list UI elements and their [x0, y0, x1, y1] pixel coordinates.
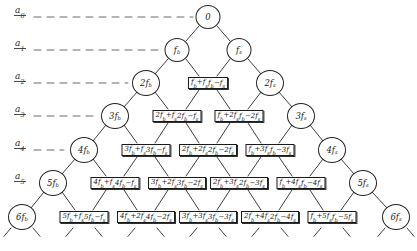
box-line-difference: 2fb−3fs — [239, 180, 265, 188]
edge-a5-to-a6 — [155, 190, 168, 210]
edge-a0-to-a1 — [186, 26, 199, 41]
node-circle-4fb[interactable]: 4fb — [70, 137, 98, 163]
box-line-difference: 4fb−2fs — [146, 214, 172, 222]
edge-a5-to-a6 — [279, 190, 292, 210]
continuation-dash — [62, 228, 73, 241]
box-line-sum: 4fb+fs — [93, 179, 115, 187]
edge-a4-to-a5 — [248, 157, 261, 176]
node-circle-5fb[interactable]: 5fb — [39, 170, 67, 196]
edge-a3-to-a4 — [186, 123, 199, 143]
continuation-dash — [407, 228, 417, 241]
box-line-difference: fb−2fs — [239, 113, 261, 121]
level-label-a0: a0 — [14, 5, 26, 16]
box-line-difference: 2fb−4fs — [270, 214, 296, 222]
edge-a3-to-a4 — [248, 123, 261, 143]
node-circle-2fs[interactable]: 2fs — [256, 70, 284, 96]
box-line-sum: fb+3fs — [248, 146, 270, 154]
continuation-dash — [157, 228, 168, 241]
node-circle-3fs[interactable]: 3fs — [287, 103, 315, 129]
node-circle-6fs[interactable]: 6fs — [382, 204, 410, 230]
edge-a2-to-a3 — [217, 90, 230, 109]
edge-a5-to-a6 — [186, 190, 199, 210]
edge-a5-to-a6 — [62, 192, 75, 210]
level-label-a3: a3 — [14, 104, 26, 115]
continuation-dash — [281, 228, 292, 241]
node-box-4fbfs[interactable]: 4fb+fs4fb−fs — [90, 177, 139, 189]
edge-a4-to-a5 — [186, 157, 199, 176]
node-box-fb2fs[interactable]: fb+2fsfb−2fs — [214, 110, 263, 122]
edge-a4-to-a5 — [310, 159, 323, 176]
edge-a1-to-a2 — [155, 59, 168, 74]
node-circle-fb[interactable]: fb — [165, 38, 190, 62]
node-circle-5fs[interactable]: 5fs — [349, 170, 377, 196]
box-line-sum: 3fb+2fs — [151, 179, 177, 187]
node-circle-0[interactable]: 0 — [196, 5, 221, 29]
edge-a5-to-a6 — [31, 192, 44, 208]
continuation-dash — [343, 228, 354, 241]
edge-a4-to-a5 — [217, 157, 230, 176]
edge-a4-to-a5 — [124, 157, 137, 176]
node-box-3fb3fs[interactable]: 3fb+3fs3fb−3fs — [179, 211, 237, 223]
frequency-tree-figure: a0a1a2a3a4a5a6 0fbfs2fbfb+fsfb−fs2fs3fb2… — [0, 0, 417, 251]
edge-a5-to-a6 — [310, 190, 323, 210]
node-circle-6fb[interactable]: 6fb — [8, 204, 36, 230]
box-line-sum: fb+fs — [191, 79, 208, 87]
box-line-sum: 2fb+3fs — [213, 179, 239, 187]
edge-a2-to-a3 — [124, 92, 137, 107]
box-line-sum: 3fb+3fs — [182, 213, 208, 221]
node-box-3fbfs[interactable]: 3fb+fs3fb−fs — [121, 144, 170, 156]
edge-a5-to-a6 — [124, 190, 137, 210]
node-box-2fb4fs[interactable]: 2fb+4fs2fb−4fs — [241, 211, 299, 223]
box-line-sum: fb+4fs — [279, 179, 301, 187]
node-box-fb4fs[interactable]: fb+4fsfb−4fs — [276, 177, 325, 189]
box-line-difference: 3fb−fs — [146, 147, 168, 155]
continuation-dash — [374, 228, 385, 241]
node-box-4fb2fs[interactable]: 4fb+2fs4fb−2fs — [117, 211, 175, 223]
edge-a3-to-a4 — [310, 125, 323, 141]
level-label-a4: a4 — [14, 138, 26, 149]
box-line-sum: 5fb+fs — [62, 213, 84, 221]
continuation-dash — [95, 228, 106, 241]
edge-a4-to-a5 — [279, 157, 292, 176]
box-line-difference: fb−5fs — [332, 214, 354, 222]
box-line-difference: 5fb−fs — [84, 214, 106, 222]
edge-a1-to-a2 — [248, 59, 261, 74]
node-circle-2fb[interactable]: 2fb — [132, 70, 160, 96]
node-circle-4fs[interactable]: 4fs — [318, 137, 346, 163]
level-label-a2: a2 — [14, 71, 26, 82]
box-line-sum: 3fb+fs — [124, 146, 146, 154]
edge-a0-to-a1 — [217, 26, 230, 41]
continuation-dash — [33, 228, 44, 241]
box-line-sum: 2fb+2fs — [182, 146, 208, 154]
edge-a4-to-a5 — [155, 157, 168, 176]
node-circle-3fb[interactable]: 3fb — [101, 103, 129, 129]
node-box-fbfs[interactable]: fb+fsfb−fs — [188, 77, 228, 89]
node-box-2fb2fs[interactable]: 2fb+2fs2fb−2fs — [179, 144, 237, 156]
node-box-2fbfs[interactable]: 2fb+fs2fb−fs — [152, 110, 201, 122]
continuation-dash — [0, 228, 11, 241]
edge-a5-to-a6 — [372, 192, 387, 208]
edge-a3-to-a4 — [93, 125, 106, 141]
node-box-2fb3fs[interactable]: 2fb+3fs2fb−3fs — [210, 177, 268, 189]
edge-a4-to-a5 — [341, 159, 354, 174]
edge-a4-to-a5 — [62, 159, 75, 174]
node-box-fb5fs[interactable]: fb+5fsfb−5fs — [307, 211, 356, 223]
edge-a3-to-a4 — [155, 123, 168, 143]
box-line-difference: 3fb−3fs — [208, 214, 234, 222]
node-box-5fbfs[interactable]: 5fb+fs5fb−fs — [59, 211, 108, 223]
level-label-a5: a5 — [14, 171, 26, 182]
box-line-sum: 4fb+2fs — [120, 213, 146, 221]
edge-a5-to-a6 — [93, 190, 106, 210]
continuation-dash — [248, 228, 259, 241]
node-box-3fb2fs[interactable]: 3fb+2fs3fb−2fs — [148, 177, 206, 189]
continuation-dash — [219, 228, 230, 241]
box-line-sum: 2fb+fs — [155, 112, 177, 120]
node-circle-fs[interactable]: fs — [227, 38, 252, 62]
node-box-fb3fs[interactable]: fb+3fsfb−3fs — [245, 144, 294, 156]
box-line-difference: 4fb−fs — [115, 180, 137, 188]
box-line-difference: fb−3fs — [270, 147, 292, 155]
box-line-difference: 2fb−fs — [177, 113, 199, 121]
edge-a3-to-a4 — [124, 125, 137, 143]
box-line-sum: fb+5fs — [310, 213, 332, 221]
edge-a2-to-a3 — [248, 92, 261, 109]
